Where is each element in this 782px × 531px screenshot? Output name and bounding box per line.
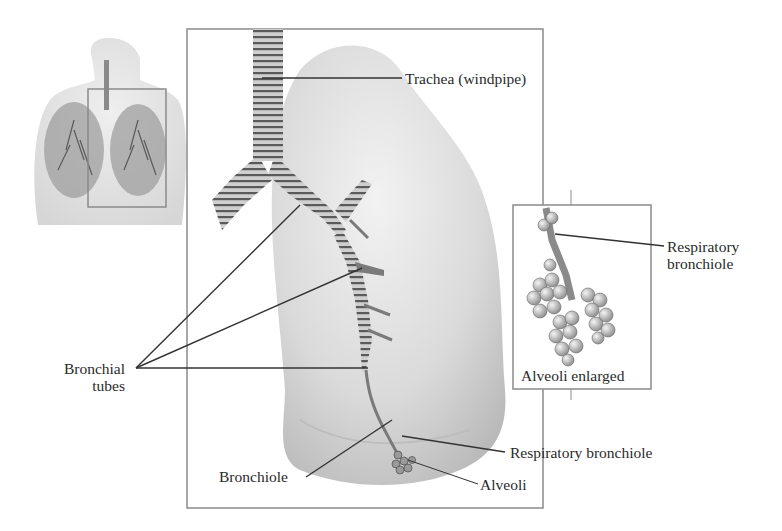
label-respiratory-bronchiole-inset-line2: bronchiole bbox=[667, 255, 739, 272]
label-bronchial-tubes-line1: Bronchial bbox=[20, 360, 125, 377]
label-bronchiole: Bronchiole bbox=[219, 468, 288, 485]
label-trachea: Trachea (windpipe) bbox=[405, 70, 526, 87]
label-bronchial-tubes-line2: tubes bbox=[20, 377, 125, 394]
diagram-artwork bbox=[0, 0, 782, 531]
label-respiratory-bronchiole-inset-line1: Respiratory bbox=[667, 238, 739, 255]
lung-shape bbox=[272, 46, 506, 485]
label-bronchial-tubes: Bronchial tubes bbox=[20, 360, 125, 394]
label-alveoli: Alveoli bbox=[480, 476, 527, 493]
respiratory-diagram: Trachea (windpipe) Bronchial tubes Bronc… bbox=[0, 0, 782, 531]
label-respiratory-bronchiole-main: Respiratory bronchiole bbox=[510, 444, 652, 461]
torso-inset bbox=[34, 38, 186, 225]
label-alveoli-enlarged: Alveoli enlarged bbox=[521, 367, 624, 384]
trachea bbox=[253, 29, 283, 161]
label-respiratory-bronchiole-inset: Respiratory bronchiole bbox=[667, 238, 739, 272]
